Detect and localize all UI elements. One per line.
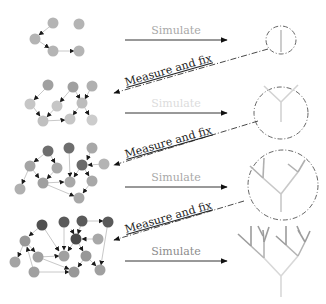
- graph-node: [69, 267, 80, 278]
- graph-node: [77, 98, 88, 109]
- graph-node: [99, 159, 110, 170]
- tree-4: [238, 226, 310, 297]
- graph-node: [52, 101, 63, 112]
- graph-node: [74, 193, 85, 204]
- graph-node: [74, 46, 85, 57]
- graph-node: [59, 251, 70, 262]
- simulate-arrow-1: Simulate: [125, 24, 227, 40]
- simulate-label: Simulate: [151, 24, 201, 37]
- graph-2: [25, 80, 98, 127]
- graph-node: [43, 80, 54, 91]
- simulate-arrow-2: Simulate: [125, 97, 227, 113]
- simulate-label: Simulate: [151, 171, 201, 184]
- simulate-label: Simulate: [151, 97, 201, 110]
- graph-node: [87, 143, 98, 154]
- graph-node: [77, 216, 88, 227]
- graph-node: [52, 163, 63, 174]
- graph-node: [71, 234, 82, 245]
- simulate-arrow-3: Simulate: [125, 171, 227, 187]
- tree-1: [266, 26, 296, 54]
- graph-3: [15, 143, 110, 204]
- graph-node: [10, 257, 21, 268]
- graph-node: [87, 176, 98, 187]
- graph-node: [15, 184, 26, 195]
- iteration-diagram: Simulate Simulate Simulate Simulate Meas…: [0, 0, 326, 304]
- graph-node: [29, 267, 40, 278]
- graph-node: [25, 99, 36, 110]
- graph-node: [87, 115, 98, 126]
- graph-node: [33, 252, 44, 263]
- graph-node: [64, 143, 75, 154]
- graph-node: [37, 220, 48, 231]
- simulate-label: Simulate: [151, 245, 201, 258]
- graph-node: [87, 81, 98, 92]
- measure-arrow-1: Measure and fix: [114, 49, 268, 93]
- graph-node: [68, 82, 79, 93]
- graph-1: [30, 18, 85, 57]
- graph-node: [38, 116, 49, 127]
- graph-node: [25, 161, 36, 172]
- simulate-arrow-4: Simulate: [125, 245, 227, 261]
- measure-label: Measure and fix: [123, 51, 214, 89]
- measure-circle: [248, 150, 318, 220]
- measure-arrow-3: Measure and fix: [114, 198, 244, 240]
- tree-3: [248, 150, 318, 220]
- graph-node: [95, 265, 106, 276]
- graph-node: [59, 217, 70, 228]
- graph-node: [93, 234, 104, 245]
- graph-node: [38, 178, 49, 189]
- graph-node: [81, 251, 92, 262]
- graph-node: [65, 114, 76, 125]
- tree-2: [254, 85, 308, 139]
- graph-node: [77, 160, 88, 171]
- graph-node: [48, 46, 59, 57]
- measure-arrow-2: Measure and fix: [114, 121, 258, 165]
- measure-label: Measure and fix: [123, 123, 214, 161]
- graph-node: [74, 19, 85, 30]
- graph-node: [30, 34, 41, 45]
- graph-node: [65, 177, 76, 188]
- graph-node: [43, 146, 54, 157]
- graph-node: [103, 217, 114, 228]
- measure-label: Measure and fix: [123, 198, 214, 236]
- graph-node: [48, 18, 59, 29]
- graph-4: [10, 216, 114, 278]
- graph-node: [20, 236, 31, 247]
